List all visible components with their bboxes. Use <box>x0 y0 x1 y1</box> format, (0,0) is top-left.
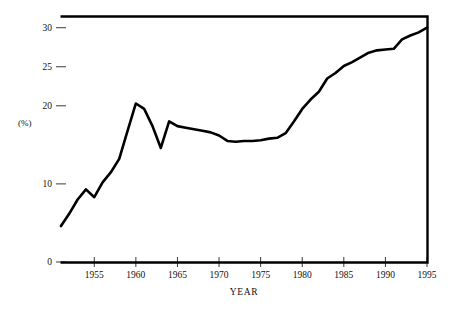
x-tick-label: 1960 <box>126 270 145 280</box>
x-tick-label: 1965 <box>168 270 187 280</box>
x-tick-label: 1995 <box>418 270 437 280</box>
line-chart-svg: 010202530 195519601965197019751980198519… <box>0 0 454 312</box>
x-tick-label: 1970 <box>210 270 229 280</box>
x-tick-label: 1985 <box>334 270 353 280</box>
x-tick-label: 1980 <box>293 270 312 280</box>
x-axis-tick-labels: 195519601965197019751980198519901995 <box>85 270 437 280</box>
y-tick-label: 30 <box>43 23 53 33</box>
y-axis-caption: (%) <box>18 118 32 128</box>
x-axis-title: YEAR <box>230 287 258 297</box>
x-tick-label: 1975 <box>251 270 270 280</box>
x-tick-label: 1955 <box>85 270 104 280</box>
y-tick-label: 0 <box>47 257 52 267</box>
y-tick-label: 25 <box>43 62 53 72</box>
x-tick-label: 1990 <box>376 270 395 280</box>
y-tick-label: 10 <box>43 179 53 189</box>
chart-figure: 010202530 195519601965197019751980198519… <box>0 0 454 312</box>
y-tick-label: 20 <box>43 101 53 111</box>
